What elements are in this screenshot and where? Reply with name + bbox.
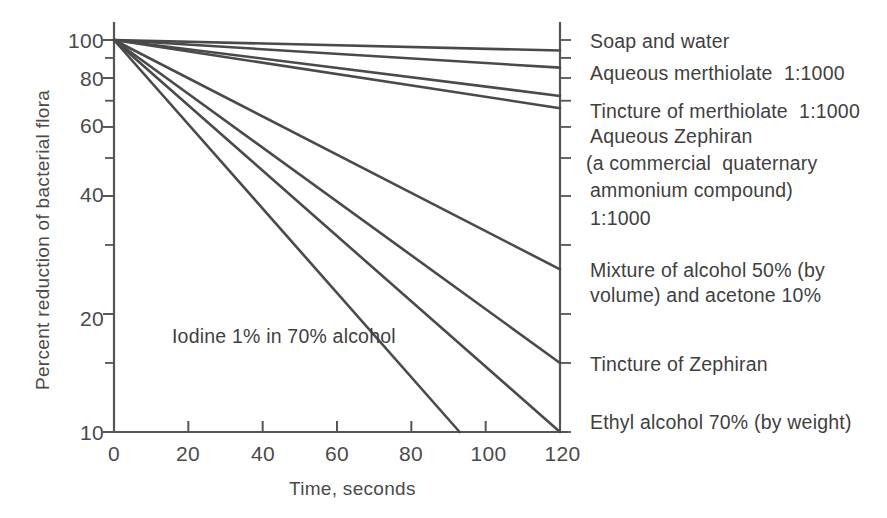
x-tick-label-40: 40 <box>243 442 283 466</box>
series-label-aqueous-merthiolate: Aqueous merthiolate 1:1000 <box>590 61 845 86</box>
x-tick-label-80: 80 <box>391 442 431 466</box>
y-tick-label-60: 60 <box>46 114 104 138</box>
x-tick-label-0: 0 <box>94 442 134 466</box>
y-axis-title: Percent reduction of bacterial flora <box>32 90 54 390</box>
x-tick-label-20: 20 <box>168 442 208 466</box>
x-tick-label-100: 100 <box>461 442 516 466</box>
y-tick-label-20: 20 <box>46 307 104 331</box>
y-tick-label-40: 40 <box>46 183 104 207</box>
annotation-iodine: Iodine 1% in 70% alcohol <box>172 325 396 348</box>
series-label-tincture-of-zephiran: Tincture of Zephiran <box>590 352 768 377</box>
x-tick-label-120: 120 <box>535 442 590 466</box>
series-label-aqueous-zephiran-line2: (a commercial quaternary <box>586 151 818 176</box>
series-label-alcohol-acetone-line1: Mixture of alcohol 50% (by <box>590 258 825 283</box>
x-tick-label-60: 60 <box>317 442 357 466</box>
y-tick-label-100: 100 <box>46 29 104 53</box>
x-axis-title: Time, seconds <box>289 478 416 500</box>
axis-lines <box>114 22 568 432</box>
chart-figure: 100 80 60 40 20 10 0 20 40 60 80 100 120… <box>0 0 887 518</box>
series-label-tincture-of-merthiolate: Tincture of merthiolate 1:1000 <box>590 99 860 124</box>
series-label-aqueous-zephiran-line4: 1:1000 <box>590 206 651 231</box>
y-tick-label-80: 80 <box>46 67 104 91</box>
series-label-aqueous-zephiran-line3: ammonium compound) <box>590 178 793 203</box>
series-label-ethyl-alcohol: Ethyl alcohol 70% (by weight) <box>590 410 852 435</box>
series-label-alcohol-acetone-line2: volume) and acetone 10% <box>590 283 821 308</box>
data-series-lines <box>114 40 560 432</box>
series-line-7 <box>114 40 460 432</box>
series-label-soap-and-water: Soap and water <box>590 29 729 54</box>
series-label-aqueous-zephiran-line1: Aqueous Zephiran <box>590 124 753 149</box>
